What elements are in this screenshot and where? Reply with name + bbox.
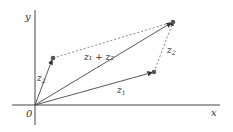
vector-z1-plus-z2 xyxy=(35,23,171,105)
origin-label: 0 xyxy=(26,108,33,119)
label-z2: z2 xyxy=(36,73,46,84)
label-z1-plus-z2: z₁ + z₂ xyxy=(83,52,114,62)
complex-addition-diagram: y x 0 z2 z1 z₁ + z₂ z2 xyxy=(0,0,233,132)
point-z2 xyxy=(51,56,56,61)
label-z1: z1 xyxy=(116,85,126,96)
x-axis-label: x xyxy=(211,107,217,118)
point-z1 xyxy=(152,70,157,75)
point-z1-plus-z2 xyxy=(171,20,176,25)
vector-z1 xyxy=(35,73,152,106)
label-z2-translated: z2 xyxy=(166,45,176,56)
y-axis-label: y xyxy=(24,11,31,22)
